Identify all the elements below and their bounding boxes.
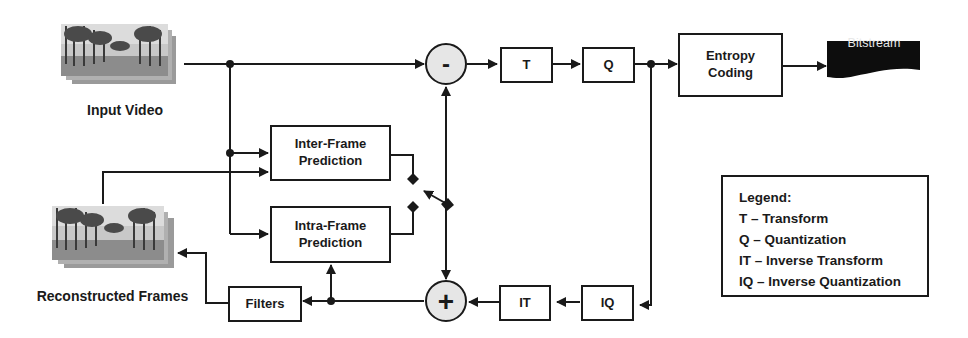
reconstructed-frames-stack: [52, 206, 174, 268]
legend-item-transform: T – Transform: [739, 208, 927, 229]
transform-block: T: [500, 47, 553, 83]
entropy-coding-label: Entropy Coding: [706, 48, 755, 82]
legend-item-inverse-transform: IT – Inverse Transform: [739, 250, 927, 271]
filters-block: Filters: [228, 286, 302, 322]
legend-box: Legend: T – Transform Q – Quantization I…: [721, 175, 929, 297]
subtract-operator: -: [426, 44, 466, 84]
reconstructed-frames-label: Reconstructed Frames: [30, 286, 195, 308]
input-video-frames: [61, 24, 176, 84]
legend-item-inverse-quantization: IQ – Inverse Quantization: [739, 271, 927, 292]
bitstream-output: Bitstream: [828, 30, 920, 56]
intra-frame-prediction-label: Intra-Frame Prediction: [295, 218, 367, 252]
add-operator: +: [426, 281, 466, 321]
inter-frame-prediction-label: Inter-Frame Prediction: [295, 136, 367, 170]
inverse-transform-block: IT: [499, 285, 551, 321]
quantization-block: Q: [582, 47, 635, 83]
legend-item-quantization: Q – Quantization: [739, 229, 927, 250]
legend-title: Legend:: [739, 187, 927, 208]
intra-frame-prediction-block: Intra-Frame Prediction: [270, 206, 391, 263]
inter-frame-prediction-block: Inter-Frame Prediction: [270, 125, 391, 181]
input-video-label: Input Video: [70, 100, 180, 122]
inverse-quantization-block: IQ: [581, 285, 634, 321]
entropy-coding-block: Entropy Coding: [678, 33, 783, 97]
